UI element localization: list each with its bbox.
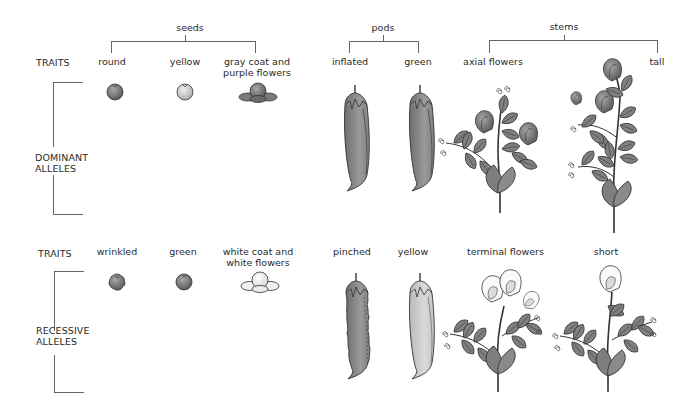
seed-white-coat-icon [240, 270, 280, 294]
trait-label-yellow: yellow [165, 56, 205, 67]
pods-bracket-left [349, 41, 350, 53]
dominant-alleles-label-line2: ALLELES [35, 163, 76, 174]
seeds-bracket-left [111, 41, 112, 53]
pod-inflated-icon [337, 83, 373, 195]
plant-tall-icon [568, 57, 658, 237]
recessive-alleles-label-line2: ALLELES [36, 336, 77, 347]
trait-label-terminal-flowers: terminal flowers [467, 246, 543, 257]
pod-green-icon [402, 83, 438, 195]
trait-label-axial-flowers: axial flowers [463, 56, 523, 67]
recessive-bracket-top [54, 271, 84, 272]
seed-round-icon [105, 82, 125, 102]
seed-wrinkled-icon [107, 272, 127, 292]
seeds-bracket-stem [185, 35, 186, 41]
trait-label-round: round [92, 56, 132, 67]
pod-yellow-icon [402, 271, 438, 383]
stems-bracket-h [489, 40, 658, 41]
trait-label-green-seed: green [163, 246, 203, 257]
trait-label-gray-coat-line1: gray coat and [222, 56, 292, 67]
plant-short-icon [552, 262, 662, 397]
traits-label-recessive: TRAITS [38, 248, 72, 259]
trait-label-white-coat-line2: white flowers [221, 257, 295, 268]
pods-bracket-h [349, 41, 419, 42]
trait-label-white-coat-line1: white coat and [221, 246, 295, 257]
stems-bracket-left [489, 40, 490, 53]
trait-label-inflated: inflated [330, 56, 370, 67]
group-label-seeds: seeds [170, 22, 210, 33]
trait-label-gray-coat-line2: purple flowers [222, 67, 292, 78]
recessive-alleles-label-line1: RECESSIVE [36, 325, 90, 336]
recessive-bracket-bottom [54, 392, 84, 393]
trait-label-yellow-pod: yellow [393, 246, 433, 257]
dominant-bracket-top [53, 82, 83, 83]
pods-bracket-right [418, 41, 419, 53]
seeds-bracket-h [111, 41, 256, 42]
trait-label-short: short [590, 246, 622, 257]
traits-label-dominant: TRAITS [36, 57, 70, 68]
stems-bracket-stem [564, 35, 565, 40]
group-label-stems: stems [544, 21, 584, 32]
seed-green-icon [174, 272, 194, 292]
dominant-bracket-lower [53, 175, 54, 215]
dominant-bracket-upper [53, 82, 54, 147]
group-label-pods: pods [363, 22, 403, 33]
dominant-bracket-bottom [53, 214, 83, 215]
dominant-alleles-label-line1: DOMINANT [35, 152, 88, 163]
pods-bracket-stem [383, 35, 384, 41]
seed-yellow-icon [175, 82, 195, 102]
plant-axial-flowers-icon [440, 83, 550, 218]
seed-gray-coat-icon [238, 82, 278, 104]
trait-label-green-pod: green [398, 56, 438, 67]
pod-pinched-icon [338, 271, 374, 383]
recessive-bracket-lower [54, 355, 55, 393]
recessive-bracket-upper [54, 271, 55, 331]
trait-label-pinched: pinched [332, 246, 372, 257]
trait-label-wrinkled: wrinkled [95, 246, 139, 257]
stems-bracket-right [657, 40, 658, 53]
seeds-bracket-right [255, 41, 256, 53]
plant-terminal-flowers-icon [442, 262, 552, 397]
